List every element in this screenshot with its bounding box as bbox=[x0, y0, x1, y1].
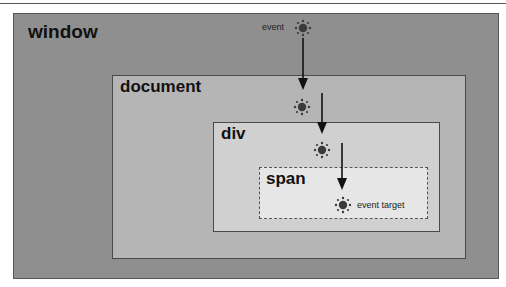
target-event-icon bbox=[335, 197, 351, 213]
document-event-icon bbox=[294, 99, 310, 115]
arrow-div-to-span bbox=[337, 143, 347, 190]
event-icon bbox=[295, 20, 311, 36]
div-event-icon bbox=[314, 142, 330, 158]
arrows-and-icons-layer bbox=[0, 0, 506, 287]
arrow-window-to-document bbox=[298, 38, 308, 90]
arrow-document-to-div bbox=[317, 93, 327, 134]
